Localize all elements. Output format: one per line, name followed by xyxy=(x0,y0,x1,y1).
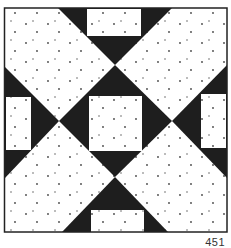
top-patch xyxy=(87,9,141,36)
right-patch xyxy=(201,94,226,148)
bottom-patch xyxy=(91,210,144,232)
center-square-patch xyxy=(89,96,142,151)
left-patch xyxy=(6,97,31,150)
quilt-block-diagram xyxy=(0,0,231,248)
figure-number: 451 xyxy=(205,236,225,248)
